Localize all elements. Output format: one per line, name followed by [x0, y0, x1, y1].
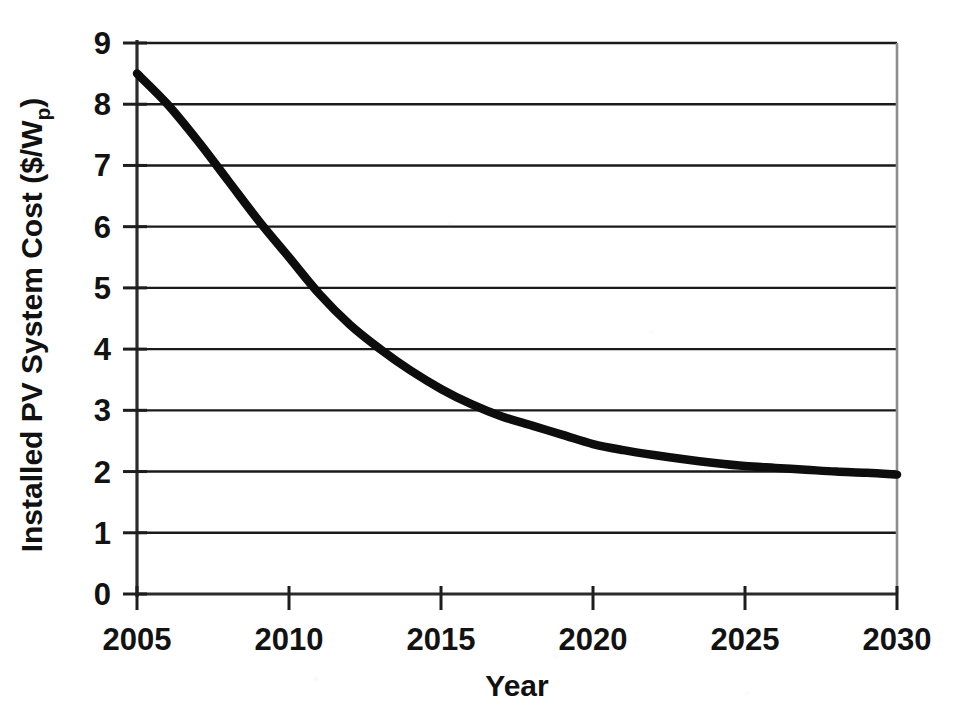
y-tick-label-6: 6: [94, 210, 111, 245]
x-axis-title: Year: [485, 669, 549, 702]
y-tick-label-4: 4: [94, 332, 112, 367]
chart-figure: 0123456789 200520102015202020252030 Year…: [0, 0, 958, 722]
y-tick-label-2: 2: [94, 455, 111, 490]
y-axis-title-main: Installed PV System Cost ($/W: [15, 120, 48, 552]
y-tick-label-7: 7: [94, 148, 111, 183]
x-tick-label-2010: 2010: [255, 622, 324, 657]
x-tick-label-2020: 2020: [559, 622, 628, 657]
y-tick-label-1: 1: [94, 516, 111, 551]
pv-cost-line-chart: 0123456789 200520102015202020252030 Year…: [0, 0, 958, 722]
x-axis-tick-labels: 200520102015202020252030: [103, 622, 932, 657]
y-axis-tick-labels: 0123456789: [94, 26, 112, 612]
y-tick-label-0: 0: [94, 577, 111, 612]
y-axis-title-subscript: p: [31, 108, 54, 121]
y-axis-title-tail: ): [15, 98, 48, 108]
y-tick-label-5: 5: [94, 271, 111, 306]
x-tick-label-2030: 2030: [863, 622, 932, 657]
y-tick-label-3: 3: [94, 393, 111, 428]
plot-area-background: [137, 43, 897, 594]
y-tick-label-8: 8: [94, 87, 111, 122]
y-axis-title-group: Installed PV System Cost ($/Wp): [15, 98, 54, 553]
y-axis-title: Installed PV System Cost ($/Wp): [15, 98, 54, 553]
y-tick-label-9: 9: [94, 26, 111, 61]
x-tick-label-2025: 2025: [711, 622, 780, 657]
x-tick-label-2015: 2015: [407, 622, 476, 657]
x-tick-label-2005: 2005: [103, 622, 172, 657]
